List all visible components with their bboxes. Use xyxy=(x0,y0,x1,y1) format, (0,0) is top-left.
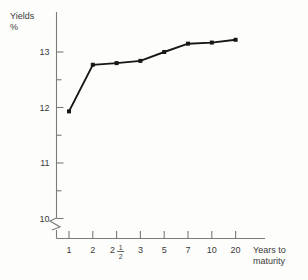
data-point-marker xyxy=(91,63,95,67)
yield-curve-line xyxy=(69,40,236,112)
x-tick-label: 5 xyxy=(162,245,167,255)
yield-curve-markers xyxy=(67,38,238,114)
data-point-marker xyxy=(138,59,142,63)
x-tick-label-fraction-denominator: 2 xyxy=(119,253,123,260)
y-tick-label: 12 xyxy=(39,103,49,113)
plot-area: 10111213 122123571020 xyxy=(0,0,308,280)
data-point-marker xyxy=(67,109,71,113)
y-tick-label: 11 xyxy=(40,158,49,168)
x-tick-label: 3 xyxy=(138,245,143,255)
x-tick-label: 20 xyxy=(231,245,241,255)
data-point-marker xyxy=(162,50,166,54)
x-axis-tick-labels: 122123571020 xyxy=(66,244,240,260)
x-tick-label: 2 xyxy=(110,245,115,255)
y-tick-label: 13 xyxy=(39,47,49,57)
y-axis-tick-labels: 10111213 xyxy=(39,47,49,224)
chart-figure: Yields % Years to maturity 10111213 1221… xyxy=(0,0,308,280)
x-tick-label: 10 xyxy=(207,245,217,255)
y-axis-ticks xyxy=(57,52,64,219)
data-point-marker xyxy=(234,38,238,42)
x-tick-label: 2 xyxy=(90,245,95,255)
x-tick-label-fraction-numerator: 1 xyxy=(119,244,123,251)
y-axis-break-icon xyxy=(50,218,60,230)
y-tick-label: 10 xyxy=(39,214,49,224)
data-point-marker xyxy=(186,42,190,46)
data-point-marker xyxy=(210,41,214,45)
x-tick-label: 7 xyxy=(185,245,190,255)
data-point-marker xyxy=(115,61,119,65)
x-axis-ticks xyxy=(69,231,236,239)
x-tick-label: 1 xyxy=(66,245,71,255)
